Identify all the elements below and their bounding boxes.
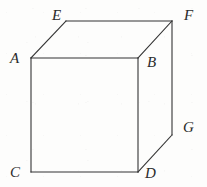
vertex-label-g: G — [183, 120, 194, 135]
vertex-label-b: B — [147, 55, 156, 70]
cube-edge-ae — [31, 21, 66, 58]
vertex-label-f: F — [184, 8, 193, 23]
vertex-label-e: E — [52, 8, 61, 23]
cube-edge-fb — [138, 21, 172, 58]
vertex-label-d: D — [145, 166, 156, 181]
cube-line-drawing — [0, 0, 207, 187]
cube-figure: ABCDEFG — [0, 0, 207, 187]
vertex-label-a: A — [10, 51, 19, 66]
vertex-label-c: C — [10, 165, 20, 180]
cube-edges — [31, 21, 172, 172]
